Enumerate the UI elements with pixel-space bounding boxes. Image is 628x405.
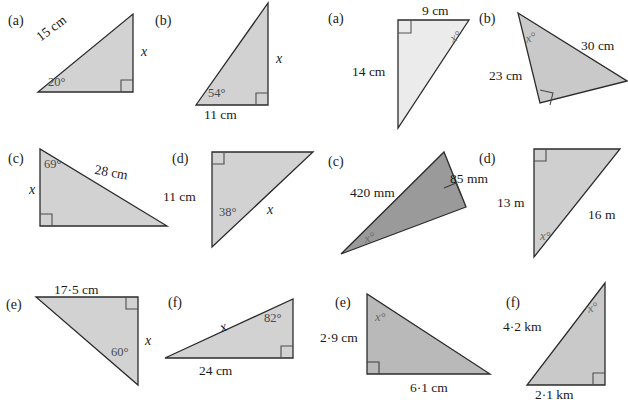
triangle-right-e: [367, 294, 490, 374]
label-left-f-angle: 82°: [264, 312, 282, 325]
label-right-f-unknown-angle: x°: [586, 300, 599, 315]
label-right-d-hypotenuse: 16 m: [588, 208, 615, 222]
label-right-b-side-left: 23 cm: [489, 69, 522, 83]
label-left-e-top: 17·5 cm: [54, 283, 99, 297]
part-label-left-b: (b): [155, 14, 171, 28]
label-right-e-unknown-angle: x°: [375, 311, 386, 324]
part-label-left-e: (e): [6, 298, 22, 312]
triangle-left-d: [212, 152, 313, 247]
label-right-c-short-side: 85 mm: [450, 172, 488, 186]
label-right-c-long-side: 420 mm: [350, 186, 395, 200]
label-right-c-unknown-angle: x°: [363, 230, 376, 245]
triangles-canvas: [0, 0, 628, 405]
part-label-left-f: (f): [168, 296, 182, 310]
label-right-e-base: 6·1 cm: [410, 381, 448, 395]
label-left-c-vertical: x: [29, 183, 35, 197]
label-left-a-angle: 20°: [48, 76, 66, 89]
triangle-right-f: [527, 283, 605, 385]
part-label-right-c: (c): [328, 155, 344, 169]
part-label-right-d: (d): [479, 152, 495, 166]
label-left-b-base: 11 cm: [204, 108, 237, 122]
label-left-d-hypotenuse: x: [267, 203, 273, 217]
triangle-left-f: [165, 299, 293, 358]
label-right-e-vertical: 2·9 cm: [320, 331, 358, 345]
part-label-left-c: (c): [8, 152, 24, 166]
label-left-c-angle: 69°: [44, 158, 62, 171]
triangle-left-e: [36, 297, 138, 385]
label-left-a-vertical: x: [141, 45, 147, 59]
part-label-right-a: (a): [328, 12, 344, 26]
part-label-right-e: (e): [335, 296, 351, 310]
part-label-left-a: (a): [8, 14, 24, 28]
label-right-d-vertical: 13 m: [497, 196, 524, 210]
part-label-right-f: (f): [506, 296, 520, 310]
label-right-a-vertical: 14 cm: [352, 65, 385, 79]
part-label-right-b: (b): [479, 12, 495, 26]
label-right-d-unknown-angle: x°: [540, 230, 551, 243]
label-right-f-base: 2·1 km: [535, 388, 574, 402]
worksheet-page: (a) 15 cm x 20° (b) x 54° 11 cm (c) 69° …: [0, 0, 628, 405]
label-left-d-vertical: 11 cm: [163, 190, 196, 204]
label-right-b-unknown-angle: x°: [524, 30, 537, 45]
label-right-b-side-right: 30 cm: [581, 39, 614, 53]
label-left-f-base: 24 cm: [199, 364, 232, 378]
triangle-right-b: [518, 13, 627, 105]
part-label-left-d: (d): [172, 152, 188, 166]
label-left-b-angle: 54°: [208, 87, 226, 100]
label-left-b-vertical: x: [276, 52, 282, 66]
label-right-f-hypotenuse: 4·2 km: [503, 320, 542, 334]
label-left-d-angle: 38°: [219, 206, 237, 219]
triangle-left-b: [196, 3, 268, 105]
label-right-a-top: 9 cm: [422, 4, 449, 18]
label-left-e-vertical: x: [145, 334, 151, 348]
triangle-right-c: [341, 152, 466, 254]
label-left-e-angle: 60°: [111, 346, 129, 359]
